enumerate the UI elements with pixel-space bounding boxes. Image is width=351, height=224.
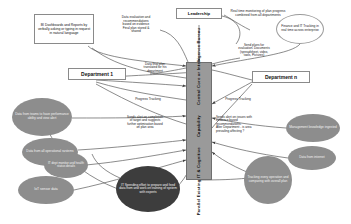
it-dept-monitor-ellipse[interactable]: IT dept monitor and health status detail… — [44, 152, 88, 178]
team-performance-ellipse[interactable]: Data from teams to have performance abil… — [12, 98, 72, 136]
data-evaluation-note: Data evaluation and recommendations base… — [112, 16, 160, 34]
management-knowledge-ellipse[interactable]: Management knowledge ingested — [286, 114, 340, 142]
data-final-plan-line3: department — [132, 70, 178, 73]
alert-issues-note: Sends alert on issues with evidence base… — [216, 116, 272, 133]
data-evaluation-line5: shared — [112, 30, 160, 34]
data-from-internet-ellipse[interactable]: Data from internet — [288, 146, 336, 170]
send-plans-note: Send plans for evaluation. Documents (sp… — [228, 44, 280, 58]
data-final-plan-note: Data final plan translated for his depar… — [132, 63, 178, 73]
bi-dashboards-box[interactable]: BI Dashboards and Reports by verbally as… — [34, 14, 94, 44]
alert-issues-line5: prevailing affecting ? — [216, 130, 272, 133]
department-1-box[interactable]: Department 1 — [68, 68, 126, 80]
it-spending-ellipse[interactable]: IT Spending effort to prepare and feed d… — [116, 166, 180, 212]
send-plans-line4: tools, Pictures) — [228, 54, 280, 57]
finance-it-tracking-ellipse[interactable]: Finance and IT Tracking in real time acr… — [276, 14, 324, 44]
department-n-box[interactable]: Department n — [252, 71, 310, 83]
central-core-bar[interactable]: Parallel Existing IT & CognitiveCapabili… — [186, 62, 212, 180]
progress-tracking-left-note: Progress Tracking — [126, 98, 170, 102]
center-bar-line3: Central Core or Intelligence Bureau — [197, 27, 202, 104]
iot-sensor-ellipse[interactable]: IoT sensor data — [18, 176, 74, 204]
progress-tracking-right-note: Progress Tracking — [216, 98, 260, 102]
center-bar-line2: Capability — [197, 115, 202, 137]
diagram-canvas: BI Dashboards and Reports by verbally as… — [0, 0, 351, 224]
alert-completion-line4: on plan area — [116, 126, 174, 129]
real-time-monitoring-note: Real time monitoring of plan progress co… — [230, 10, 286, 17]
alert-completion-note: Sends alert on completion of target and … — [116, 116, 174, 130]
leadership-box[interactable]: Leadership — [176, 8, 222, 19]
tracking-operations-ellipse[interactable]: Tracking every operation and comparing w… — [244, 156, 292, 204]
center-bar-line1: Parallel Existing IT & Cognitive — [197, 147, 202, 215]
